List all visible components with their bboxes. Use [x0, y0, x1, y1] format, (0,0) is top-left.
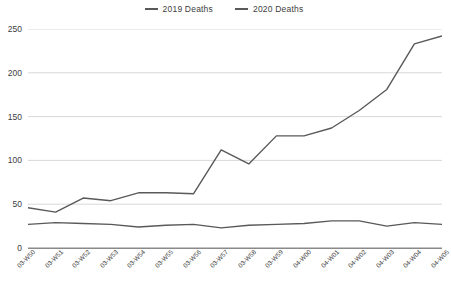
legend-label-2020-deaths: 2020 Deaths — [253, 5, 303, 14]
x-axis-tick-label: 03-W59 — [265, 249, 285, 269]
x-axis-tick-label: 03-W52 — [71, 249, 91, 269]
x-axis-tick-label: 03-W58 — [237, 249, 257, 269]
gridlines — [28, 29, 442, 248]
y-axis-tick-label: 100 — [8, 156, 22, 165]
x-axis-tick-label: 03-W51 — [44, 249, 64, 269]
x-axis-tick-label: 04-W02 — [347, 249, 367, 269]
y-axis: 050100150200250 — [0, 29, 26, 248]
x-axis-tick-label: 04-W04 — [403, 249, 423, 269]
x-axis-tick-label: 04-W01 — [320, 249, 340, 269]
chart-legend: 2019 Deaths 2020 Deaths — [0, 2, 448, 16]
plot-area — [28, 29, 442, 248]
y-axis-tick-label: 150 — [8, 112, 22, 121]
y-axis-tick-label: 200 — [8, 69, 22, 78]
legend-swatch-2020-deaths — [235, 8, 248, 10]
y-axis-tick-label: 0 — [17, 244, 22, 253]
legend-item-2020-deaths: 2020 Deaths — [235, 5, 303, 14]
x-axis-tick-label: 04-W05 — [430, 249, 450, 269]
legend-item-2019-deaths: 2019 Deaths — [145, 5, 213, 14]
series-line-2020-deaths — [28, 36, 442, 212]
x-axis-tick-label: 03-W56 — [182, 249, 202, 269]
legend-swatch-2019-deaths — [145, 8, 158, 10]
x-axis-tick-label: 03-W53 — [99, 249, 119, 269]
plot-svg — [28, 29, 442, 248]
y-axis-tick-label: 50 — [13, 200, 22, 209]
y-axis-tick-label: 250 — [8, 25, 22, 34]
legend-label-2019-deaths: 2019 Deaths — [163, 5, 213, 14]
x-axis-tick-label: 04-W00 — [292, 249, 312, 269]
x-axis-tick-label: 03-W55 — [154, 249, 174, 269]
x-axis-tick-label: 04-W03 — [375, 249, 395, 269]
x-axis-tick-label: 03-W54 — [127, 249, 147, 269]
x-axis-labels: 03-W5003-W5103-W5203-W5303-W5403-W5503-W… — [28, 249, 442, 287]
series-lines — [28, 36, 442, 228]
x-axis-tick-label: 03-W57 — [209, 249, 229, 269]
series-line-2019-deaths — [28, 221, 442, 228]
